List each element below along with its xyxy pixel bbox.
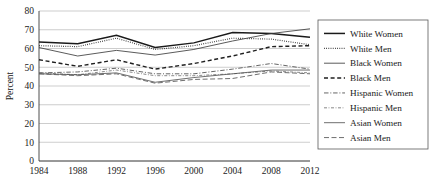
x-tick-label: 1996 (146, 166, 165, 176)
y-tick-label: 70 (25, 25, 35, 35)
x-tick-label: 1984 (30, 166, 49, 176)
y-tick-label: 80 (25, 6, 35, 16)
x-tick-label: 2012 (301, 166, 320, 176)
y-tick-label: 40 (25, 81, 35, 91)
y-tick-label: 10 (25, 138, 35, 148)
legend-label-asian-men: Asian Men (350, 133, 391, 143)
legend-label-black-men: Black Men (350, 73, 391, 83)
y-axis-title: Percent (5, 71, 15, 100)
legend-label-white-men: White Men (350, 44, 392, 54)
legend: White WomenWhite MenBlack WomenBlack Men… (318, 20, 428, 149)
legend-label-black-women: Black Women (350, 58, 402, 68)
x-tick-label: 2008 (262, 166, 281, 176)
legend-label-asian-women: Asian Women (350, 118, 402, 128)
x-tick-labels-group: 19841988199219962000200420082012 (30, 166, 320, 176)
x-tick-label: 1988 (68, 166, 87, 176)
chart-svg: 01020304050607080 1984198819921996200020… (0, 0, 431, 188)
y-tick-label: 60 (25, 44, 35, 54)
y-tick-label: 50 (25, 63, 35, 73)
series-line-black-men (39, 46, 310, 69)
x-tick-label: 1992 (107, 166, 126, 176)
y-tick-label: 30 (25, 100, 35, 110)
x-tick-label: 2000 (184, 166, 203, 176)
y-axis-title-group: Percent (5, 71, 15, 100)
y-tick-label: 20 (25, 119, 35, 129)
x-tick-label: 2004 (223, 166, 242, 176)
data-series-group (39, 29, 310, 83)
y-tick-labels-group: 01020304050607080 (25, 6, 35, 166)
series-line-hispanic-women (39, 64, 310, 74)
line-chart: 01020304050607080 1984198819921996200020… (0, 0, 431, 188)
legend-box (318, 20, 428, 149)
series-line-asian-men (39, 72, 310, 83)
legend-label-hispanic-women: Hispanic Women (350, 88, 414, 98)
legend-label-white-women: White Women (350, 29, 403, 39)
series-line-white-women (39, 33, 310, 48)
y-tick-label: 0 (29, 156, 34, 166)
legend-label-hispanic-men: Hispanic Men (350, 103, 402, 113)
